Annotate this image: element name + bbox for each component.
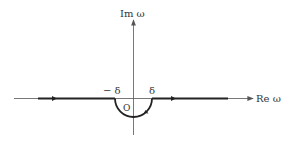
neg-delta-label: − δ <box>103 85 121 96</box>
pos-delta-label: δ <box>149 85 155 96</box>
arrow-right-segment-icon <box>171 96 176 101</box>
contour-diagram: Im ω Re ω − δ δ O <box>0 0 296 146</box>
real-axis-label: Re ω <box>256 93 281 104</box>
origin-label: O <box>123 103 130 113</box>
imag-axis-label: Im ω <box>120 8 145 19</box>
arrow-left-segment-icon <box>52 96 57 101</box>
